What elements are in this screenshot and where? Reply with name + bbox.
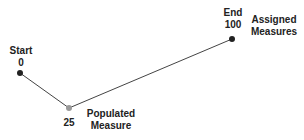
end-value: 100 bbox=[220, 19, 246, 31]
populated-node-dot bbox=[66, 105, 72, 111]
populated-value-label: 25 bbox=[58, 117, 80, 129]
populated-title-line1: Populated bbox=[86, 108, 136, 120]
start-node-dot bbox=[17, 70, 23, 76]
populated-title-line2: Measure bbox=[86, 120, 136, 132]
end-label: End 100 bbox=[220, 7, 246, 31]
populated-title-label: Populated Measure bbox=[86, 108, 136, 132]
start-value: 0 bbox=[6, 57, 36, 69]
edge-populated-end bbox=[69, 39, 232, 108]
edge-start-populated bbox=[20, 73, 69, 108]
end-node-dot bbox=[229, 36, 235, 42]
assigned-line2: Measures bbox=[250, 26, 298, 38]
start-label: Start 0 bbox=[6, 45, 36, 69]
start-title: Start bbox=[6, 45, 36, 57]
assigned-line1: Assigned bbox=[250, 14, 298, 26]
assigned-measures-label: Assigned Measures bbox=[250, 14, 298, 38]
end-title: End bbox=[220, 7, 246, 19]
